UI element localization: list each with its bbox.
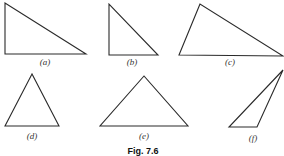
triangle-a-shape [5, 3, 86, 54]
triangle-b-label: (b) [127, 57, 138, 67]
triangle-d-shape [5, 74, 59, 126]
triangle-e: (e) [100, 76, 188, 141]
triangle-e-label: (e) [139, 131, 149, 141]
triangle-f-label: (f) [249, 133, 258, 143]
triangle-a: (a) [5, 3, 86, 67]
figure-caption: Fig. 7.6 [127, 146, 158, 156]
figure-7-6: (a) (b) (c) (d) (e) (f) Fig. 7.6 [0, 0, 284, 156]
triangle-b-shape [109, 4, 158, 55]
triangle-e-shape [100, 76, 188, 126]
triangle-c: (c) [179, 4, 283, 67]
triangle-d: (d) [5, 74, 59, 141]
triangle-c-shape [179, 4, 283, 56]
triangle-f: (f) [229, 70, 283, 143]
triangle-a-label: (a) [40, 57, 51, 67]
triangle-d-label: (d) [27, 131, 38, 141]
triangle-b: (b) [109, 4, 158, 67]
triangle-c-label: (c) [225, 57, 235, 67]
triangle-f-shape [229, 70, 283, 127]
